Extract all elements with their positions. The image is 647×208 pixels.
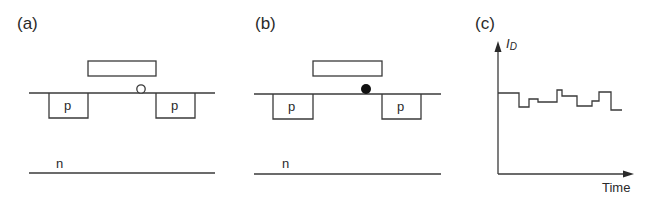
empty-trap-icon — [137, 85, 145, 93]
substrate-label: n — [56, 156, 63, 171]
source-label: p — [288, 99, 295, 114]
panel-c-label: (c) — [475, 14, 495, 33]
x-axis-arrow-icon — [623, 171, 634, 178]
y-axis-arrow-icon — [495, 41, 502, 52]
drain-current-waveform — [498, 90, 622, 110]
substrate-label: n — [282, 156, 289, 171]
diagram-canvas: (a) p p n (b) p p n (c) ID Time — [0, 0, 647, 208]
panel-a: (a) p p n — [17, 14, 215, 173]
gate-rectangle — [313, 61, 382, 76]
drain-label: p — [397, 99, 404, 114]
gate-rectangle — [88, 61, 156, 76]
y-axis-label: ID — [506, 36, 517, 52]
panel-a-label: (a) — [17, 14, 38, 33]
filled-trap-icon — [361, 84, 371, 94]
x-axis-label: Time — [602, 180, 630, 195]
drain-label: p — [171, 98, 178, 113]
panel-b: (b) p p n — [254, 14, 441, 174]
panel-c: (c) ID Time — [475, 14, 634, 195]
source-label: p — [64, 98, 71, 113]
panel-b-label: (b) — [255, 14, 276, 33]
